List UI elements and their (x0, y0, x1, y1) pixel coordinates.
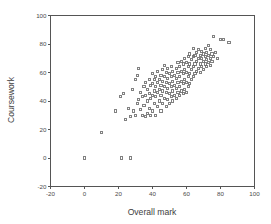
data-point (228, 42, 230, 44)
data-point (177, 91, 179, 93)
data-point (187, 66, 189, 68)
data-point (128, 107, 130, 109)
data-point (177, 71, 179, 73)
data-point (160, 110, 162, 112)
data-point (202, 69, 204, 71)
ticks-group (48, 16, 255, 190)
data-point (206, 59, 208, 61)
data-point (206, 52, 208, 54)
data-point (140, 91, 142, 93)
data-point (184, 79, 186, 81)
data-point (187, 56, 189, 58)
x-tick-label: 40 (149, 190, 156, 197)
data-point (146, 113, 148, 115)
data-point (145, 81, 147, 83)
data-point (163, 64, 165, 66)
y-tick-label: 60 (40, 69, 47, 76)
data-point (204, 56, 206, 58)
data-point (151, 110, 153, 112)
data-point (138, 99, 140, 101)
x-tick-label: 60 (183, 190, 190, 197)
data-point (167, 99, 169, 101)
data-point (199, 63, 201, 65)
data-point (187, 86, 189, 88)
data-point (155, 76, 157, 78)
data-point (165, 81, 167, 83)
data-point (131, 89, 133, 91)
data-point (150, 97, 152, 99)
data-point (201, 50, 203, 52)
data-point (209, 57, 211, 59)
data-point (145, 94, 147, 96)
data-point (174, 94, 176, 96)
data-point (163, 97, 165, 99)
data-point (83, 157, 85, 159)
data-point (141, 96, 143, 98)
x-tick-label: 20 (115, 190, 122, 197)
data-point (158, 89, 160, 91)
data-point (145, 116, 147, 118)
data-point (189, 83, 191, 85)
data-point (172, 90, 174, 92)
data-point (167, 77, 169, 79)
data-point (180, 80, 182, 82)
data-point (160, 94, 162, 96)
data-point (170, 86, 172, 88)
data-point (201, 66, 203, 68)
data-point (153, 90, 155, 92)
data-point (197, 67, 199, 69)
data-point (174, 84, 176, 86)
data-point (151, 73, 153, 75)
y-tick-label: -20 (38, 183, 48, 190)
data-point (134, 114, 136, 116)
data-point (206, 66, 208, 68)
data-point (208, 54, 210, 56)
data-point (179, 76, 181, 78)
data-point (197, 57, 199, 59)
data-point (196, 60, 198, 62)
data-point (180, 60, 182, 62)
data-point (153, 79, 155, 81)
data-point (121, 157, 123, 159)
data-point (160, 84, 162, 86)
data-point (150, 114, 152, 116)
data-point (213, 56, 215, 58)
data-point (199, 54, 201, 56)
data-point (184, 89, 186, 91)
data-point (202, 53, 204, 55)
data-point (180, 90, 182, 92)
data-point (165, 71, 167, 73)
data-point (191, 59, 193, 61)
data-point (163, 76, 165, 78)
data-point (172, 100, 174, 102)
data-point (201, 57, 203, 59)
data-point (179, 66, 181, 68)
x-tick-label: -20 (46, 190, 56, 197)
data-point (143, 104, 145, 106)
data-point (168, 103, 170, 105)
x-tick-label: 100 (249, 190, 260, 197)
data-point (180, 70, 182, 72)
data-point (168, 73, 170, 75)
data-point (129, 116, 131, 118)
plot-canvas: -20020406080100-20020406080100 Overall m… (0, 0, 271, 224)
data-point (162, 69, 164, 71)
data-point (157, 106, 159, 108)
data-point (160, 74, 162, 76)
data-point (158, 100, 160, 102)
data-point (136, 74, 138, 76)
y-tick-label: 0 (43, 154, 47, 161)
data-point (182, 63, 184, 65)
data-point (175, 97, 177, 99)
data-point (167, 67, 169, 69)
data-point (146, 89, 148, 91)
x-tick-label: 80 (217, 190, 224, 197)
data-point (170, 66, 172, 68)
data-point (148, 79, 150, 81)
data-point (211, 60, 213, 62)
data-point (100, 131, 102, 133)
data-point (163, 86, 165, 88)
y-tick-label: 20 (40, 126, 47, 133)
data-point (165, 91, 167, 93)
data-point (219, 39, 221, 41)
